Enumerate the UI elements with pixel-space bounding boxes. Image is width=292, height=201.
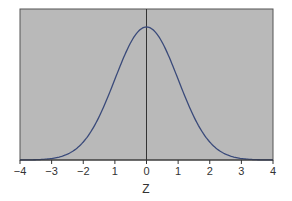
x-tick-label: −2 (77, 165, 90, 177)
x-tick-label: −4 (14, 165, 27, 177)
x-tick-label: 0 (143, 165, 149, 177)
x-tick-label: 4 (270, 165, 276, 177)
x-axis-ticks (20, 160, 273, 164)
x-tick-label: 3 (238, 165, 244, 177)
x-tick-label: 2 (207, 165, 213, 177)
x-axis-title: Z (142, 182, 149, 196)
x-tick-label: 1 (112, 165, 118, 177)
x-tick-label: 1 (175, 165, 181, 177)
x-tick-label: −3 (45, 165, 58, 177)
